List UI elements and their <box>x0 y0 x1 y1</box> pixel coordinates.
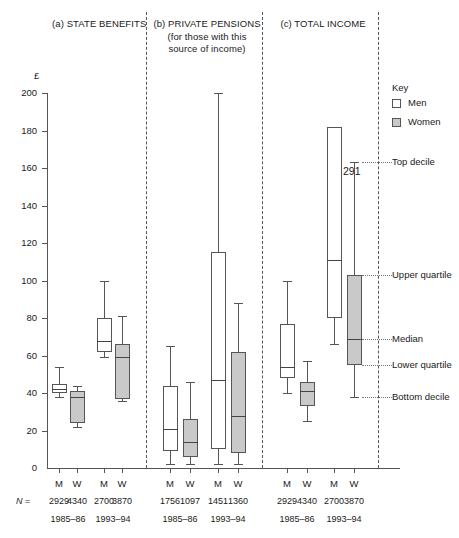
x-axis-line <box>47 468 400 469</box>
x-label-c-2: M <box>324 478 344 489</box>
box-a-women-198586-median-line <box>70 397 85 398</box>
box-a-women-199394-whisker-upper <box>122 316 123 344</box>
x-tick-c-0 <box>287 468 288 473</box>
x-label-b-1: W <box>180 478 200 489</box>
panel-title-c: (c) TOTAL INCOME <box>268 18 378 29</box>
box-b-men-198586-median-line <box>163 429 178 430</box>
x-label-c-0: M <box>277 478 297 489</box>
box-b-men-199394-cap-lower <box>214 464 223 465</box>
box-c-men-198586 <box>280 324 295 378</box>
box-a-men-199394-whisker-upper <box>104 281 105 319</box>
year-label-c-1: 1993–94 <box>316 514 372 524</box>
box-c-women-198586-cap-lower <box>303 421 312 422</box>
y-tick-label-20: 20 <box>11 425 37 436</box>
box-a-men-198586-whisker-upper <box>59 367 60 384</box>
box-c-men-198586-median-line <box>280 367 295 368</box>
panel-title-b: (b) PRIVATE PENSIONS <box>152 18 262 29</box>
box-a-women-198586-cap-upper <box>73 386 82 387</box>
box-a-men-198586-median-line <box>52 389 67 390</box>
y-tick-label-60: 60 <box>11 350 37 361</box>
x-label-a-0: M <box>49 478 69 489</box>
box-a-men-199394 <box>97 318 112 352</box>
box-c-men-198586-whisker-lower <box>287 378 288 393</box>
box-c-women-198586-cap-upper <box>303 361 312 362</box>
box-a-women-199394-cap-upper <box>118 316 127 317</box>
box-b-women-198586 <box>183 419 198 457</box>
y-tick-200 <box>42 93 47 94</box>
reference-label-upper-quartile: Upper quartile <box>392 269 452 280</box>
panel-separator-1 <box>262 12 263 468</box>
key-title: Key <box>392 82 408 93</box>
y-axis-line <box>47 93 48 468</box>
y-tick-180 <box>42 131 47 132</box>
panel-separator-0 <box>146 12 147 468</box>
n-value-a-3: 3870 <box>105 496 139 506</box>
x-tick-b-3 <box>238 468 239 473</box>
box-c-women-199394-median-line <box>347 339 362 340</box>
y-tick-100 <box>42 281 47 282</box>
box-c-women-198586-whisker-upper <box>307 361 308 382</box>
y-tick-label-100: 100 <box>11 275 37 286</box>
box-b-men-199394-median-line <box>211 380 226 381</box>
key-swatch-women <box>392 118 401 127</box>
key-swatch-men <box>392 99 401 108</box>
reference-leader-lower-quartile <box>362 365 392 366</box>
box-c-women-199394 <box>347 275 362 365</box>
box-b-men-199394-whisker-upper <box>218 93 219 252</box>
x-label-c-3: W <box>344 478 364 489</box>
y-tick-label-120: 120 <box>11 237 37 248</box>
x-tick-c-3 <box>354 468 355 473</box>
box-c-men-199394-median-line <box>327 260 342 261</box>
year-label-a-1: 1993–94 <box>85 514 141 524</box>
y-tick-label-0: 0 <box>11 462 37 473</box>
x-tick-c-1 <box>307 468 308 473</box>
box-b-men-198586 <box>163 386 178 452</box>
reference-label-median: Median <box>392 333 423 344</box>
box-b-men-199394-whisker-lower <box>218 449 219 464</box>
x-tick-c-2 <box>334 468 335 473</box>
reference-label-bottom-decile: Bottom decile <box>392 391 450 402</box>
box-b-women-198586-cap-lower <box>186 464 195 465</box>
reference-label-lower-quartile: Lower quartile <box>392 359 452 370</box>
box-b-men-199394-cap-upper <box>214 93 223 94</box>
y-tick-label-200: 200 <box>11 87 37 98</box>
key-label-men: Men <box>408 97 426 108</box>
y-tick-label-140: 140 <box>11 200 37 211</box>
box-c-women-199394-whisker-upper <box>354 162 355 275</box>
x-tick-a-2 <box>104 468 105 473</box>
panel-title-a: (a) STATE BENEFITS <box>52 18 140 29</box>
panel-separator-2 <box>378 12 379 468</box>
x-tick-a-1 <box>77 468 78 473</box>
box-a-men-199394-median-line <box>97 341 112 342</box>
box-a-women-199394-median-line <box>115 357 130 358</box>
y-tick-60 <box>42 356 47 357</box>
box-a-men-198586-cap-lower <box>55 397 64 398</box>
box-c-women-199394-cap-upper <box>350 162 359 163</box>
n-row-prefix: N = <box>16 496 30 506</box>
box-b-women-198586-cap-upper <box>186 382 195 383</box>
x-label-b-3: W <box>228 478 248 489</box>
reference-leader-median <box>362 339 392 340</box>
box-b-women-199394-whisker-upper <box>238 303 239 352</box>
box-c-men-199394 <box>327 127 342 318</box>
n-value-b-3: 1360 <box>221 496 255 506</box>
box-c-men-198586-cap-upper <box>283 281 292 282</box>
box-b-women-199394-median-line <box>231 416 246 417</box>
box-c-men-198586-cap-lower <box>283 393 292 394</box>
x-tick-b-1 <box>190 468 191 473</box>
box-a-women-198586-cap-lower <box>73 427 82 428</box>
box-b-men-198586-cap-upper <box>166 346 175 347</box>
y-tick-40 <box>42 393 47 394</box>
reference-label-top-decile: Top decile <box>392 156 435 167</box>
box-c-men-199394-cap-lower <box>330 344 339 345</box>
box-c-men-199394-whisker-lower <box>334 318 335 344</box>
year-label-b-1: 1993–94 <box>200 514 256 524</box>
reference-leader-top-decile <box>362 162 392 163</box>
box-a-women-199394-cap-lower <box>118 401 127 402</box>
box-c-women-199394-whisker-lower <box>354 365 355 397</box>
box-b-women-199394 <box>231 352 246 453</box>
y-tick-160 <box>42 168 47 169</box>
box-c-women-198586-whisker-lower <box>307 406 308 421</box>
panel-subtitle-b-line1: (for those with this <box>152 31 262 42</box>
x-label-a-2: M <box>94 478 114 489</box>
